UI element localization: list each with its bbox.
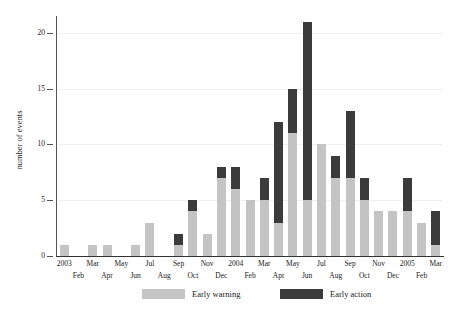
bar-segment-early-action (260, 178, 269, 200)
bar-segment-early-action (346, 111, 355, 178)
bar-segment-early-warning (431, 245, 440, 256)
bar-segment-early-action (217, 167, 226, 178)
bar-segment-early-warning (374, 211, 383, 256)
bar-segment-early-warning (231, 189, 240, 256)
bar-segment-early-warning (417, 223, 426, 256)
bar-column[interactable] (74, 16, 83, 256)
bar-column[interactable] (188, 16, 197, 256)
bar-segment-early-action (274, 122, 283, 222)
bar-segment-early-warning (246, 200, 255, 256)
bar-segment-early-action (188, 200, 197, 211)
bar-segment-early-warning (303, 200, 312, 256)
bar-segment-early-warning (260, 200, 269, 256)
y-axis-tick-label: 10 (25, 140, 45, 148)
bar-segment-early-warning (403, 211, 412, 256)
bar-column[interactable] (60, 16, 69, 256)
legend-label-early-warning: Early warning (192, 288, 240, 300)
bar-column[interactable] (131, 16, 140, 256)
bar-segment-early-warning (145, 223, 154, 256)
bar-column[interactable] (117, 16, 126, 256)
x-axis-tick-label: Mar (419, 259, 453, 268)
y-axis-tick-label: 20 (25, 29, 45, 37)
bar-segment-early-action (403, 178, 412, 211)
bar-segment-early-action (331, 156, 340, 178)
bar-segment-early-warning (331, 178, 340, 256)
y-axis-tick-label: 0 (25, 252, 45, 260)
bar-column[interactable] (160, 16, 169, 256)
legend-swatch-early-action (280, 289, 323, 299)
bar-column[interactable] (231, 16, 240, 256)
bar-segment-early-warning (217, 178, 226, 256)
bar-column[interactable] (103, 16, 112, 256)
bar-column[interactable] (203, 16, 212, 256)
bar-segment-early-warning (288, 133, 297, 256)
bar-column[interactable] (403, 16, 412, 256)
bar-segment-early-warning (60, 245, 69, 256)
bar-column[interactable] (174, 16, 183, 256)
chart-legend: Early warning Early action (0, 288, 454, 308)
y-axis-tick (47, 33, 53, 34)
y-axis-label: number of events (14, 85, 24, 195)
bar-segment-early-warning (360, 200, 369, 256)
bar-segment-early-warning (346, 178, 355, 256)
legend-swatch-early-warning (142, 289, 185, 299)
bar-segment-early-action (231, 167, 240, 189)
bar-segment-early-warning (388, 211, 397, 256)
bar-column[interactable] (346, 16, 355, 256)
bar-column[interactable] (217, 16, 226, 256)
bar-segment-early-action (288, 89, 297, 134)
y-axis-tick (47, 144, 53, 145)
bar-segment-early-action (174, 234, 183, 245)
bar-column[interactable] (88, 16, 97, 256)
bar-segment-early-warning (103, 245, 112, 256)
bar-segment-early-warning (188, 211, 197, 256)
bar-column[interactable] (288, 16, 297, 256)
bar-column[interactable] (260, 16, 269, 256)
bar-column[interactable] (417, 16, 426, 256)
bar-column[interactable] (431, 16, 440, 256)
bar-segment-early-action (303, 22, 312, 201)
bar-column[interactable] (317, 16, 326, 256)
x-axis-tick-label: Feb (405, 271, 439, 280)
bar-column[interactable] (360, 16, 369, 256)
bar-column[interactable] (331, 16, 340, 256)
y-axis-tick (47, 200, 53, 201)
bar-segment-early-warning (274, 223, 283, 256)
bar-column[interactable] (274, 16, 283, 256)
bar-column[interactable] (374, 16, 383, 256)
bar-segment-early-warning (131, 245, 140, 256)
plot-area: 05101520 (57, 16, 443, 256)
x-axis-line (56, 256, 444, 257)
bar-column[interactable] (388, 16, 397, 256)
bar-column[interactable] (303, 16, 312, 256)
y-axis-tick-label: 15 (25, 85, 45, 93)
bar-segment-early-action (431, 211, 440, 244)
bar-series-group (57, 16, 443, 256)
bar-segment-early-warning (317, 144, 326, 256)
y-axis-tick (47, 89, 53, 90)
bar-segment-early-warning (88, 245, 97, 256)
y-axis-tick-label: 5 (25, 196, 45, 204)
bar-column[interactable] (145, 16, 154, 256)
bar-segment-early-action (360, 178, 369, 200)
bar-segment-early-warning (174, 245, 183, 256)
y-axis-tick (47, 256, 53, 257)
bar-segment-early-warning (203, 234, 212, 256)
legend-label-early-action: Early action (330, 288, 371, 300)
chart-container: number of events 05101520 2003FebMarAprM… (0, 0, 454, 317)
bar-column[interactable] (246, 16, 255, 256)
